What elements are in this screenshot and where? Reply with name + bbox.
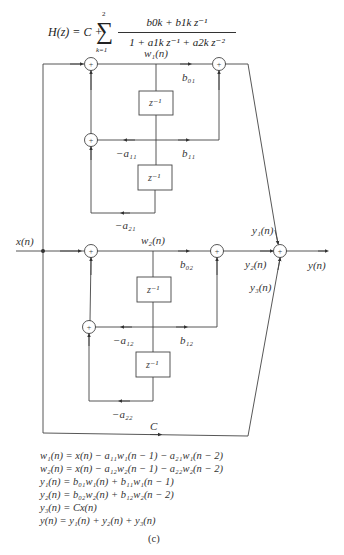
equation-y2: y₂(n) = b₀₂w₂(n) + b₁₂w₂(n − 2) bbox=[40, 490, 174, 501]
delay-label: z⁻¹ bbox=[148, 172, 160, 183]
svg-text:+: + bbox=[89, 60, 94, 69]
svg-text:+: + bbox=[87, 323, 92, 332]
formula-numerator: b0k + b1k z⁻¹ bbox=[120, 16, 234, 29]
coef-a12: −a₁₂ bbox=[113, 335, 134, 346]
coef-a22: −a₂₂ bbox=[112, 409, 133, 420]
svg-text:+: + bbox=[89, 247, 94, 256]
fraction-bar bbox=[118, 32, 236, 33]
sum-symbol: ∑ bbox=[96, 18, 113, 45]
equation-w2: w₂(n) = x(n) − a₁₂w₂(n − 1) − a₂₂w₂(n − … bbox=[40, 464, 223, 475]
coef-b01: b₀₁ bbox=[182, 72, 195, 83]
svg-text:+: + bbox=[215, 247, 220, 256]
figure-caption: (c) bbox=[148, 533, 160, 544]
coef-b11: b₁₁ bbox=[182, 148, 195, 159]
delay-label: z⁻¹ bbox=[147, 284, 159, 295]
svg-text:+: + bbox=[89, 136, 94, 145]
signal-y: y(n) bbox=[308, 260, 326, 271]
equation-y: y(n) = y₁(n) + y₂(n) + y₃(n) bbox=[40, 516, 156, 527]
sum-lower-limit: k=1 bbox=[96, 46, 107, 54]
signal-w1: w₁(n) bbox=[144, 48, 168, 59]
transfer-function-formula: H(z) = C + 2 ∑ k=1 b0k + b1k z⁻¹ 1 + a1k… bbox=[48, 10, 288, 50]
junction-dot bbox=[41, 249, 45, 253]
formula-lhs: H(z) = C + bbox=[48, 25, 103, 40]
signal-y1: y₁(n) bbox=[252, 225, 274, 236]
coef-a21: −a₂₁ bbox=[115, 220, 136, 231]
svg-text:+: + bbox=[217, 60, 222, 69]
delay-label: z⁻¹ bbox=[149, 97, 161, 108]
equation-y1: y₁(n) = b₀₁w₁(n) + b₁₁w₁(n − 1) bbox=[40, 477, 174, 488]
signal-w2: w₂(n) bbox=[141, 235, 165, 246]
coef-a11: −a₁₁ bbox=[116, 148, 137, 159]
signal-y2: y₂(n) bbox=[245, 259, 267, 270]
coef-b12: b₁₂ bbox=[180, 335, 193, 346]
formula-denominator: 1 + a1k z⁻¹ + a2k z⁻² bbox=[116, 36, 238, 49]
coef-C: C bbox=[150, 421, 157, 432]
sum-upper-limit: 2 bbox=[102, 10, 106, 18]
signal-y3: y₃(n) bbox=[250, 282, 272, 293]
signal-x: x(n) bbox=[16, 236, 34, 247]
svg-text:+: + bbox=[278, 247, 283, 256]
delay-label: z⁻¹ bbox=[146, 359, 158, 370]
equation-w1: w₁(n) = x(n) − a₁₁w₁(n − 1) − a₂₁w₁(n − … bbox=[40, 451, 223, 462]
equation-y3: y₃(n) = Cx(n) bbox=[40, 503, 97, 514]
coef-b02: b₀₂ bbox=[180, 259, 193, 270]
